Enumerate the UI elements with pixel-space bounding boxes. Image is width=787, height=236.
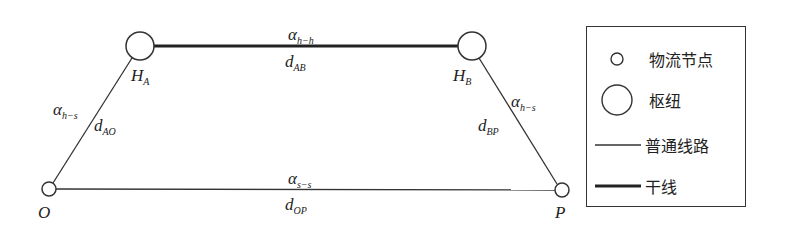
legend-item-ordinary-line: 普通线路 xyxy=(595,133,709,157)
logistics-node-p xyxy=(555,183,569,197)
edge-alpha-ha-o: αh−s xyxy=(53,101,78,121)
thin-line-icon xyxy=(595,140,641,150)
edge-dist-o-p: dOP xyxy=(285,196,307,216)
small-circle-icon xyxy=(607,49,627,69)
legend-item-trunk-line: 干线 xyxy=(595,174,677,198)
hub-node-ha xyxy=(126,32,154,60)
edge-alpha-ha-hb: αh−h xyxy=(288,26,314,46)
edge-dist-ha-hb: dAB xyxy=(285,53,306,73)
logistics-node-o xyxy=(42,182,56,196)
hub-node-hb xyxy=(458,32,486,60)
legend-item-logistics-node: 物流节点 xyxy=(607,47,713,71)
node-label-o: O xyxy=(38,204,50,221)
thick-line-icon xyxy=(595,181,641,191)
edge-alpha-o-p: αs−s xyxy=(288,170,311,190)
legend-item-hub: 枢纽 xyxy=(599,82,681,118)
node-label-p: P xyxy=(555,204,565,221)
edge-dist-ha-o: dAO xyxy=(94,117,116,137)
large-circle-icon xyxy=(599,82,635,118)
edge-dist-hb-p: dBP xyxy=(478,117,499,137)
node-label-hb: HB xyxy=(453,67,471,87)
edge-alpha-hb-p: αh−s xyxy=(511,93,536,113)
node-label-ha: HA xyxy=(131,67,149,87)
legend-box: 物流节点 枢纽 普通线路 干线 xyxy=(586,26,746,207)
